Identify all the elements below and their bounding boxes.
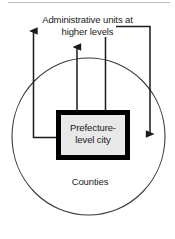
higher-levels-label: Administrative units at higher levels xyxy=(0,14,175,37)
counties-label: Counties xyxy=(45,176,135,188)
prefecture-level-city-label: Prefecture- level city xyxy=(60,122,126,145)
administrative-hierarchy-diagram: Administrative units at higher levels Pr… xyxy=(0,0,175,239)
